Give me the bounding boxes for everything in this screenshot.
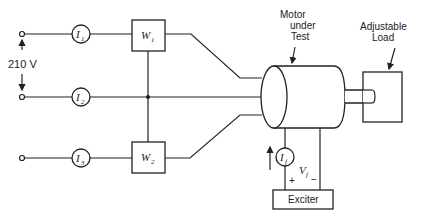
load-label: Adjustable [360,21,407,32]
ammeter-i3: I 3 [72,149,90,167]
minus-sign: − [311,174,317,185]
exciter-label: Exciter [288,194,319,205]
svg-text:2: 2 [151,158,155,166]
voltage-label: 210 V [8,58,37,70]
motor-label: Motor [280,9,306,20]
ammeter-i2: I 2 [72,88,90,106]
circuit-diagram: 210 V I 1 I 2 I 3 W 1 W 2 [0,0,438,220]
load-label: Load [372,32,394,43]
ammeter-if: I f [276,148,294,166]
svg-text:W: W [141,151,151,163]
motor-label: Test [291,31,310,42]
motor-under-test [261,66,345,128]
ammeter-i1: I 1 [72,25,90,43]
terminal-bottom [20,156,25,161]
svg-text:1: 1 [151,36,155,44]
svg-text:1: 1 [81,35,85,43]
junction-dot [146,95,150,99]
plus-sign: + [289,175,295,186]
wattmeter-w2: W 2 [132,142,165,173]
svg-text:W: W [141,29,151,41]
terminal-middle [20,95,25,100]
terminal-top [20,32,25,37]
motor-label: under [290,20,316,31]
svg-text:2: 2 [81,98,85,106]
svg-text:3: 3 [80,159,85,167]
svg-text:f: f [306,171,309,179]
wattmeter-w1: W 1 [132,20,165,51]
